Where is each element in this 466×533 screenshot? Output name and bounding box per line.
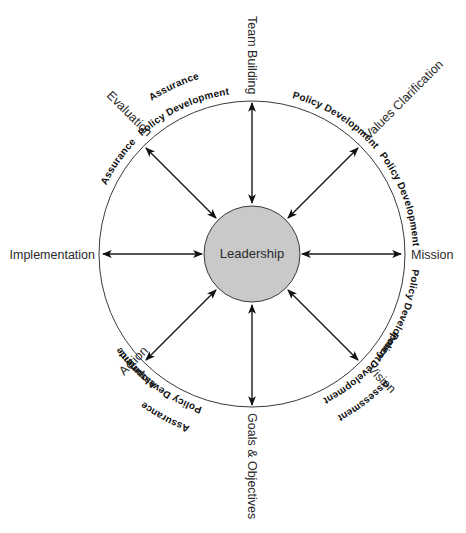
arrow-evaluation (146, 148, 216, 218)
center-label: Leadership (220, 246, 284, 261)
arc-label-r-upper: Policy Development (378, 150, 422, 247)
arrow-action (146, 290, 216, 360)
node-implementation: Implementation (10, 248, 96, 262)
leadership-cycle-diagram: Leadership Team Building Values Clarific… (0, 0, 466, 533)
arrow-vision (288, 290, 358, 360)
arc-label-l-upper: Assurance (98, 136, 138, 187)
arrow-values-clarification (288, 148, 358, 218)
arc-label-tr: Policy Development (291, 89, 381, 151)
node-mission: Mission (411, 248, 453, 262)
node-team-building: Team Building (245, 16, 259, 95)
node-values-clarification: Values Clarification (361, 57, 446, 142)
node-goals-objectives: Goals & Objectives (245, 413, 259, 519)
